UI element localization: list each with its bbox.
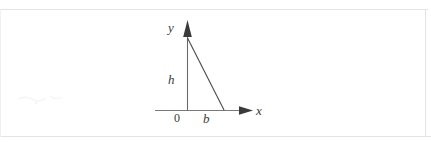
- figure-canvas: y x h b 0: [0, 0, 431, 144]
- x-axis-arrowhead: [239, 106, 253, 114]
- triangle-figure: [0, 0, 431, 144]
- y-axis-arrowhead: [183, 20, 192, 37]
- origin-label: 0: [174, 112, 180, 124]
- x-axis-label: x: [256, 104, 262, 117]
- height-label: h: [168, 73, 175, 86]
- triangle-hypotenuse: [188, 38, 225, 110]
- base-label: b: [203, 112, 210, 125]
- y-axis-label: y: [168, 21, 174, 34]
